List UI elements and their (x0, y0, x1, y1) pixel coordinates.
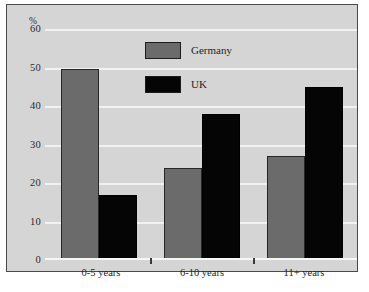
x-axis-label-6-10-years: 6-10 years (152, 267, 252, 278)
y-axis: 60 50 40 30 20 10 0 (15, 29, 41, 260)
x-axis-label-11-years: 11+ years (254, 267, 354, 278)
legend-label-germany: Germany (191, 45, 232, 56)
y-tick-label: 60 (19, 24, 41, 34)
x-axis-line (45, 258, 357, 260)
bar-uk-11-years (305, 87, 343, 260)
legend-item-germany: Germany (145, 39, 275, 61)
bar-uk-6-10-years (202, 114, 240, 260)
figure: % 60 50 40 30 20 10 0 (0, 0, 369, 292)
y-tick-label: 0 (19, 255, 41, 265)
y-tick-label: 50 (19, 63, 41, 73)
bar-uk-0-5-years (99, 195, 137, 261)
bar-germany-0-5-years (61, 69, 99, 260)
legend-swatch-germany (145, 42, 181, 59)
y-tick-label: 40 (19, 101, 41, 111)
bar-germany-11-years (267, 156, 305, 260)
source-caption (8, 284, 238, 292)
chart-panel: % 60 50 40 30 20 10 0 (6, 4, 358, 272)
y-tick-label: 20 (19, 178, 41, 188)
y-tick-label: 30 (19, 140, 41, 150)
x-axis-label-0-5-years: 0-5 years (51, 267, 151, 278)
bar-germany-6-10-years (164, 168, 202, 260)
legend-item-uk: UK (145, 73, 275, 95)
legend: Germany UK (145, 39, 275, 107)
y-tick-label: 10 (19, 217, 41, 227)
legend-label-uk: UK (191, 79, 207, 90)
gridline-60 (45, 29, 357, 31)
x-tick-mark (253, 258, 255, 264)
x-tick-mark (150, 258, 152, 264)
legend-swatch-uk (145, 76, 181, 93)
